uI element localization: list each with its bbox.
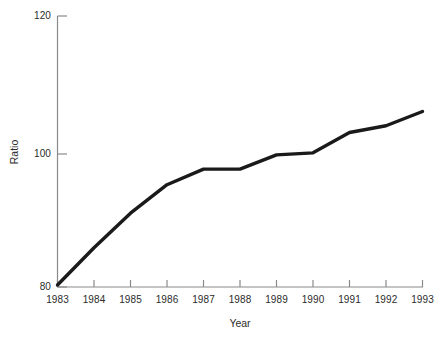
y-axis-ticks	[58, 16, 68, 287]
y-tick-label-100: 100	[18, 148, 51, 159]
x-tick-label-1993: 1993	[401, 294, 444, 305]
data-series-line	[58, 112, 423, 285]
chart-plot-area	[0, 0, 445, 338]
x-axis-title: Year	[210, 317, 270, 329]
y-axis-title: Ratio	[8, 127, 20, 177]
x-axis-ticks	[58, 280, 423, 287]
y-tick-label-120: 120	[18, 10, 51, 21]
y-tick-label-80: 80	[18, 281, 51, 292]
line-chart: 120 100 80 1983 1984 1985 1986 1987 1988…	[0, 0, 445, 338]
